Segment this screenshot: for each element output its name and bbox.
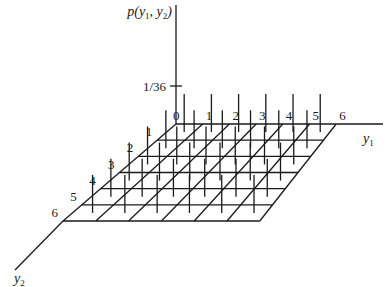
y1-tick-label: 0 [173,108,180,123]
y1-tick-label: 1 [206,108,213,123]
y2-axis-label: y2 [12,271,25,287]
y1-tick-label: 4 [286,108,293,123]
y2-tick-label: 4 [89,173,96,188]
tick-labels: 0123456123456 [52,108,347,220]
y1-tick-label: 3 [259,108,266,123]
y1-tick-label: 5 [313,108,320,123]
axes [15,5,383,270]
y2-axis [15,221,63,270]
base-grid [63,124,336,221]
z-tick-label: 1/36 [143,79,167,94]
z-axis-label: p(y1, y2) [126,4,172,21]
y2-tick-label: 2 [127,140,134,155]
y2-tick-label: 3 [108,157,115,172]
y1-tick-label: 2 [232,108,239,123]
y1-axis-label: y1 [361,131,374,148]
y2-tick-label: 6 [52,205,59,220]
diagram-canvas: 0123456123456 p(y1, y2) 1/36 y1 y2 [0,0,391,287]
y1-tick-label: 6 [339,108,346,123]
y2-tick-label: 5 [70,189,77,204]
probability-grid-diagram: 0123456123456 p(y1, y2) 1/36 y1 y2 [0,0,391,287]
y2-tick-label: 1 [146,124,153,139]
